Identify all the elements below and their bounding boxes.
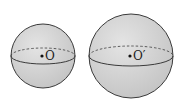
sphere-o-prime: O′ xyxy=(89,14,173,98)
center-label-o: O xyxy=(45,49,55,63)
center-point-o-prime xyxy=(128,54,131,57)
sphere-o: O xyxy=(11,24,75,88)
spheres-diagram: O O′ xyxy=(0,0,180,102)
center-point-o xyxy=(40,54,43,57)
center-label-o-prime: O′ xyxy=(133,49,146,63)
